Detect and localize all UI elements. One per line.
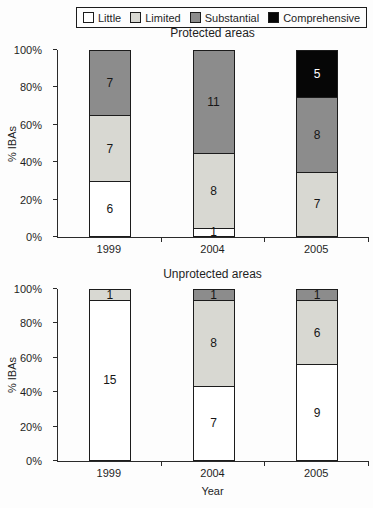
y-tick-label: 100% — [14, 282, 42, 296]
segment-value: 5 — [314, 67, 321, 81]
segment-substantial-1999: 7 — [89, 50, 131, 115]
y-tick-label: 20% — [20, 193, 42, 207]
figure-stacked-bar-charts: LittleLimitedSubstantialComprehensive Pr… — [0, 0, 373, 508]
y-tick-label: 0% — [26, 454, 42, 468]
segment-value: 7 — [106, 76, 113, 90]
segment-limited-2005: 6 — [296, 300, 338, 365]
y-tick-mark — [53, 460, 57, 461]
x-axis-labels: 199920042005 — [57, 243, 368, 255]
segment-limited-2004: 8 — [193, 300, 235, 386]
bar-2005: 785 — [265, 50, 369, 237]
segment-value: 15 — [103, 373, 116, 387]
legend: LittleLimitedSubstantialComprehensive — [76, 7, 367, 28]
x-axis-title: Year — [57, 485, 368, 497]
segment-value: 6 — [314, 326, 321, 340]
x-tick-mark — [264, 238, 265, 242]
y-tick-label: 80% — [20, 316, 42, 330]
legend-label: Comprehensive — [283, 12, 360, 24]
x-tick-label-2004: 2004 — [161, 467, 265, 479]
segment-limited-2004: 8 — [193, 153, 235, 228]
y-tick-mark — [53, 49, 57, 50]
y-tick-mark — [53, 86, 57, 87]
y-tick-mark — [53, 288, 57, 289]
y-tick-mark — [53, 199, 57, 200]
segment-value: 8 — [210, 184, 217, 198]
x-tick-mark — [368, 238, 369, 242]
legend-item-little: Little — [83, 12, 121, 24]
x-tick-label-2005: 2005 — [264, 467, 368, 479]
bar-1999: 677 — [58, 50, 162, 237]
segment-little-2005: 9 — [296, 364, 338, 461]
y-tick-mark — [53, 161, 57, 162]
segment-substantial-2004: 11 — [193, 50, 235, 153]
bar-2005: 961 — [265, 289, 369, 461]
legend-swatch-comprehensive — [268, 12, 279, 23]
stacked-bar: 1811 — [193, 50, 235, 237]
segment-value: 9 — [314, 406, 321, 420]
segment-value: 8 — [210, 336, 217, 350]
stacked-bar: 781 — [193, 289, 235, 461]
y-tick-mark — [53, 236, 57, 237]
chart-title: Unprotected areas — [57, 267, 368, 281]
segment-substantial-2005: 8 — [296, 97, 338, 172]
segment-limited-1999: 7 — [89, 115, 131, 180]
segment-value: 7 — [314, 197, 321, 211]
x-tick-mark — [368, 462, 369, 466]
legend-item-limited: Limited — [130, 12, 180, 24]
segment-value: 7 — [210, 416, 217, 430]
segment-value: 1 — [210, 225, 217, 239]
segment-substantial-2004: 1 — [193, 289, 235, 300]
x-axis-labels: 199920042005 — [57, 467, 368, 479]
y-tick-label: 100% — [14, 43, 42, 57]
legend-swatch-limited — [130, 12, 141, 23]
plot-area: 6771811785 — [57, 50, 369, 238]
y-axis: 0%20%40%60%80%100% — [0, 50, 52, 237]
x-tick-mark — [161, 462, 162, 466]
y-tick-label: 60% — [20, 351, 42, 365]
stacked-bar: 785 — [296, 50, 338, 237]
y-tick-mark — [53, 322, 57, 323]
y-axis: 0%20%40%60%80%100% — [0, 289, 52, 461]
legend-label: Substantial — [205, 12, 259, 24]
y-tick-mark — [53, 357, 57, 358]
segment-comprehensive-2005: 5 — [296, 50, 338, 97]
segment-little-1999: 15 — [89, 300, 131, 461]
segment-limited-2005: 7 — [296, 172, 338, 237]
legend-swatch-little — [83, 12, 94, 23]
segment-little-1999: 6 — [89, 181, 131, 237]
y-tick-mark — [53, 391, 57, 392]
stacked-bar: 151 — [89, 289, 131, 461]
legend-item-substantial: Substantial — [190, 12, 259, 24]
x-tick-mark — [264, 462, 265, 466]
segment-little-2004: 1 — [193, 228, 235, 237]
bar-1999: 151 — [58, 289, 162, 461]
x-tick-label-1999: 1999 — [57, 467, 161, 479]
y-tick-label: 40% — [20, 385, 42, 399]
y-tick-label: 0% — [26, 230, 42, 244]
bar-2004: 781 — [162, 289, 266, 461]
x-tick-mark — [161, 238, 162, 242]
x-tick-label-2005: 2005 — [264, 243, 368, 255]
stacked-bar: 961 — [296, 289, 338, 461]
plot-area: 151781961 — [57, 289, 369, 462]
y-tick-label: 40% — [20, 155, 42, 169]
x-tick-label-1999: 1999 — [57, 243, 161, 255]
segment-little-2004: 7 — [193, 386, 235, 461]
y-tick-mark — [53, 124, 57, 125]
segment-substantial-2005: 1 — [296, 289, 338, 300]
y-tick-label: 20% — [20, 420, 42, 434]
segment-value: 6 — [106, 202, 113, 216]
legend-label: Limited — [145, 12, 180, 24]
y-tick-mark — [53, 426, 57, 427]
y-tick-label: 80% — [20, 80, 42, 94]
chart-protected-areas: Protected areas % IBAs 0%20%40%60%80%100… — [0, 26, 373, 262]
segment-value: 8 — [314, 128, 321, 142]
bar-2004: 1811 — [162, 50, 266, 237]
stacked-bar: 677 — [89, 50, 131, 237]
x-tick-label-2004: 2004 — [161, 243, 265, 255]
chart-title: Protected areas — [57, 26, 368, 40]
legend-label: Little — [98, 12, 121, 24]
y-tick-label: 60% — [20, 118, 42, 132]
legend-item-comprehensive: Comprehensive — [268, 12, 360, 24]
segment-value: 7 — [106, 142, 113, 156]
